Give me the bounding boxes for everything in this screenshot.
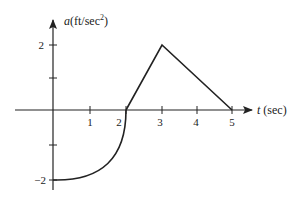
y-tick-label-neg2: −2 [34, 174, 46, 186]
x-tick-label-2: 2 [116, 116, 122, 128]
y-tick-label-2: 2 [39, 39, 45, 51]
acceleration-chart: 1 2 3 4 5 2 −2 a(ft/sec2) t (sec) [0, 0, 297, 202]
y-axis-label: a(ft/sec2) [64, 13, 108, 28]
curve-linear-segments [126, 45, 232, 110]
x-axis-label: t (sec) [257, 103, 287, 117]
x-tick-label-4: 4 [193, 116, 199, 128]
x-tick-label-5: 5 [229, 116, 235, 128]
x-tick-label-1: 1 [87, 116, 93, 128]
x-tick-label-3: 3 [157, 116, 163, 128]
